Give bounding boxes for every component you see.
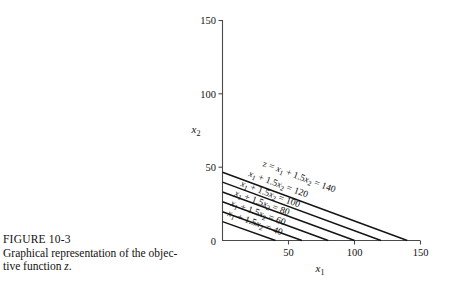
y-axis-ticks	[219, 21, 223, 168]
x-tick-label-100: 100	[347, 247, 363, 258]
y-tick-label-0: 0	[211, 236, 216, 247]
y-axis-title: x2	[191, 123, 201, 138]
objective-function-chart: 150 100 50 0 50 100 150 x2 x1 z = x1 + 1…	[0, 0, 466, 287]
y-tick-label-100: 100	[200, 89, 216, 100]
x-axis-title: x1	[315, 262, 325, 277]
x-axis-ticks	[289, 241, 421, 245]
y-tick-label-150: 150	[200, 15, 216, 26]
y-tick-label-50: 50	[206, 162, 217, 173]
x-tick-label-50: 50	[283, 247, 294, 258]
x-tick-label-150: 150	[413, 247, 429, 258]
iso-line-labels: z = x1 + 1.5x2 = 140 x1 + 1.5x2 = 120 x1…	[225, 158, 338, 240]
